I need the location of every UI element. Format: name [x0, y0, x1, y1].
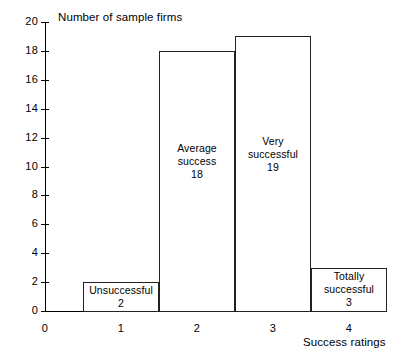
y-tick-label-group: 0: [0, 305, 38, 316]
y-tick-label-group: 8: [0, 189, 38, 200]
x-tick-label: 0: [42, 322, 48, 334]
y-tick-label-group: 12: [0, 132, 38, 143]
y-tick-mark: [41, 282, 49, 283]
bar-1[interactable]: Unsuccessful 2: [83, 282, 159, 312]
y-tick-label: 10: [2, 161, 38, 172]
y-tick-mark: [41, 311, 49, 312]
y-tick-label: 4: [2, 247, 38, 258]
y-tick-mark: [41, 138, 49, 139]
y-tick-label: 18: [2, 45, 38, 56]
y-tick-mark: [41, 51, 49, 52]
y-tick-mark: [41, 195, 49, 196]
y-tick-label-group: 2: [0, 276, 38, 287]
x-tick-label-group: 1: [101, 318, 141, 336]
y-tick-label: 12: [2, 132, 38, 143]
y-tick-label: 14: [2, 103, 38, 114]
x-tick-label: 2: [194, 322, 200, 334]
y-tick-label-group: 16: [0, 74, 38, 85]
bar-label: Average success 18: [175, 142, 219, 181]
y-tick-label: 16: [2, 74, 38, 85]
y-tick-label-group: 18: [0, 45, 38, 56]
bar-2[interactable]: Average success 18: [159, 51, 235, 312]
x-tick-label: 4: [346, 322, 352, 334]
bar-4[interactable]: Totally successful 3: [311, 268, 387, 312]
y-tick-label: 20: [2, 16, 38, 27]
x-tick-label: 1: [118, 322, 124, 334]
y-tick-mark: [41, 167, 49, 168]
y-axis-title: Number of sample firms: [58, 11, 182, 24]
x-axis-title: Success ratings: [303, 336, 386, 349]
x-tick-label-group: 4: [329, 318, 369, 336]
y-tick-label: 8: [2, 189, 38, 200]
y-tick-label-group: 6: [0, 218, 38, 229]
x-tick-label-group: 3: [253, 318, 293, 336]
x-tick-label: 3: [270, 322, 276, 334]
y-tick-label-group: 4: [0, 247, 38, 258]
y-tick-label: 2: [2, 276, 38, 287]
y-tick-label-group: 10: [0, 161, 38, 172]
bar-label: Very successful 19: [246, 135, 300, 174]
y-tick-label: 0: [2, 305, 38, 316]
y-tick-label-group: 20: [0, 16, 38, 27]
x-tick-label-group: 0: [25, 318, 65, 336]
y-tick-mark: [41, 80, 49, 81]
bar-label: Totally successful 3: [322, 270, 376, 309]
y-tick-mark: [41, 253, 49, 254]
x-tick-label-group: 2: [177, 318, 217, 336]
y-tick-mark: [41, 22, 49, 23]
bar-chart: Number of sample firms 20181614121086420…: [0, 0, 401, 360]
bar-3[interactable]: Very successful 19: [235, 36, 311, 312]
y-tick-label-group: 14: [0, 103, 38, 114]
y-tick-mark: [41, 224, 49, 225]
bar-label: Unsuccessful 2: [87, 284, 155, 310]
y-tick-label: 6: [2, 218, 38, 229]
y-tick-mark: [41, 109, 49, 110]
